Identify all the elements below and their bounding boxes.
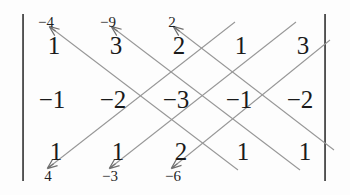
matrix-cell-r1c1: 1	[48, 32, 61, 60]
annotation-above-c2: −9	[100, 14, 116, 31]
matrix-cell-r1c4: 1	[235, 32, 248, 60]
matrix-cell-r2c4: −1	[226, 86, 253, 114]
matrix-cell-r2c5: −2	[287, 86, 314, 114]
annotation-below-c3: −6	[165, 168, 181, 185]
determinant-diagram: −4 −9 2 1 3 2 1 3 −1 −2 −3 −1 −2 1 1 2 1…	[0, 0, 350, 195]
matrix-cell-r2c2: −2	[100, 86, 127, 114]
annotation-below-c1: 4	[44, 168, 52, 185]
annotation-below-c2: −3	[102, 168, 118, 185]
matrix-cell-r3c4: 1	[237, 138, 250, 166]
matrix-cell-r1c2: 3	[110, 32, 123, 60]
matrix-cell-r1c5: 3	[297, 32, 310, 60]
matrix-cell-r2c1: −1	[39, 86, 66, 114]
matrix-cell-r3c1: 1	[50, 138, 63, 166]
matrix-cell-r3c3: 2	[175, 138, 188, 166]
matrix-cell-r2c3: −3	[163, 86, 190, 114]
matrix-cell-r1c3: 2	[173, 32, 186, 60]
annotation-above-c1: −4	[38, 14, 54, 31]
matrix-cell-r3c2: 1	[112, 138, 125, 166]
matrix-cell-r3c5: 1	[299, 138, 312, 166]
annotation-above-c3: 2	[168, 14, 176, 31]
